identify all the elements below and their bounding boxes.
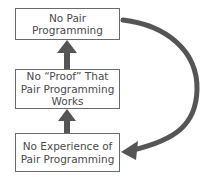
node-label-line: No “Proof” That [21, 70, 115, 83]
node-no-proof: No “Proof” That Pair Programming Works [15, 69, 120, 109]
node-no-pair-programming: No Pair Programming [15, 8, 120, 40]
arrow-up-proof-to-nopair [57, 40, 77, 69]
node-no-experience: No Experience of Pair Programming [15, 133, 120, 172]
node-label-line: No Pair [32, 12, 103, 25]
node-label-line: Pair Programming [21, 153, 115, 166]
node-label-line: Programming [32, 24, 103, 37]
node-label-line: Works [21, 95, 115, 108]
arrow-up-experience-to-proof [58, 109, 76, 133]
curved-arrow-nopair-to-experience [121, 20, 197, 160]
node-label-line: No Experience of [21, 140, 115, 153]
node-label-line: Pair Programming [21, 83, 115, 96]
